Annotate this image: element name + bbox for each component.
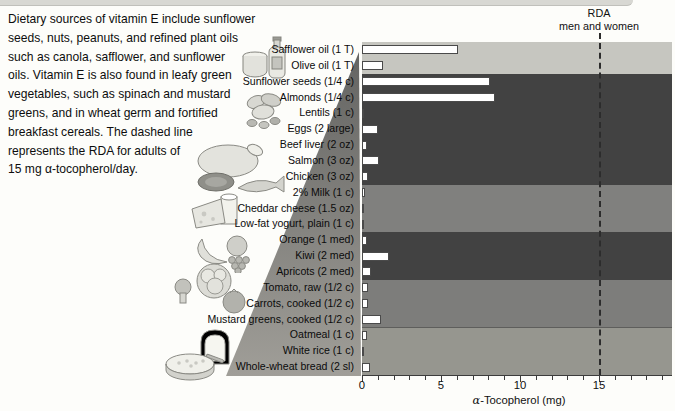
bar-2 xyxy=(362,77,490,86)
minor-tick-2 xyxy=(394,376,395,380)
bar-4 xyxy=(362,109,364,118)
band-seeds-nuts-protein xyxy=(362,74,672,185)
plot-area xyxy=(362,42,672,375)
row-label-10: Cheddar cheese (1.5 oz) xyxy=(0,201,358,217)
bar-17 xyxy=(362,315,381,324)
minor-tick-12 xyxy=(552,376,553,380)
row-label-4: Lentils (1 c) xyxy=(0,105,358,121)
minor-tick-13 xyxy=(567,376,568,380)
bar-1 xyxy=(362,61,383,70)
row-label-17: Mustard greens, cooked (1/2 c) xyxy=(0,312,358,328)
tick-label-15: 15 xyxy=(593,379,606,391)
row-label-16: Carrots, cooked (1/2 c) xyxy=(0,296,358,312)
minor-tick-14 xyxy=(583,376,584,380)
row-label-0: Safflower oil (1 T) xyxy=(0,42,358,58)
tick-label-10: 10 xyxy=(514,379,527,391)
row-label-6: Beef liver (2 oz) xyxy=(0,137,358,153)
bar-13 xyxy=(362,252,389,261)
minor-tick-9 xyxy=(504,376,505,380)
row-label-13: Kiwi (2 med) xyxy=(0,248,358,264)
category-labels: Safflower oil (1 T)Olive oil (1 T)Sunflo… xyxy=(0,42,358,375)
band-fruits xyxy=(362,232,672,280)
minor-tick-7 xyxy=(473,376,474,380)
bar-16 xyxy=(362,299,368,308)
minor-tick-1 xyxy=(378,376,379,380)
minor-tick-6 xyxy=(457,376,458,380)
rda-label-line2: men and women xyxy=(559,20,639,33)
row-label-5: Eggs (2 large) xyxy=(0,121,358,137)
minor-tick-3 xyxy=(409,376,410,380)
bar-19 xyxy=(362,347,364,356)
minor-tick-16 xyxy=(615,376,616,380)
bar-8 xyxy=(362,172,368,181)
row-label-20: Whole-wheat bread (2 sl) xyxy=(0,359,358,375)
bar-15 xyxy=(362,283,368,292)
row-label-2: Sunflower seeds (1/4 c) xyxy=(0,74,358,90)
bar-3 xyxy=(362,93,495,102)
minor-tick-17 xyxy=(631,376,632,380)
minor-tick-18 xyxy=(646,376,647,380)
row-label-1: Olive oil (1 T) xyxy=(0,58,358,74)
minor-tick-11 xyxy=(536,376,537,380)
row-label-15: Tomato, raw (1/2 c) xyxy=(0,280,358,296)
x-axis-title: α-Tocopherol (mg) xyxy=(472,394,565,407)
bar-0 xyxy=(362,45,458,54)
bar-7 xyxy=(362,156,379,165)
bar-9 xyxy=(362,188,365,197)
rda-line xyxy=(599,33,601,375)
rda-label-line1: RDA xyxy=(559,7,639,20)
row-label-7: Salmon (3 oz) xyxy=(0,153,358,169)
bar-12 xyxy=(362,236,367,245)
row-label-14: Apricots (2 med) xyxy=(0,264,358,280)
bar-6 xyxy=(362,141,367,150)
bar-18 xyxy=(362,331,367,340)
bar-11 xyxy=(362,220,364,229)
row-label-19: White rice (1 c) xyxy=(0,343,358,359)
row-label-12: Orange (1 med) xyxy=(0,232,358,248)
row-label-18: Oatmeal (1 c) xyxy=(0,327,358,343)
band-vegetables xyxy=(362,280,672,328)
bar-14 xyxy=(362,267,371,276)
tick-label-0: 0 xyxy=(359,379,365,391)
row-label-9: 2% Milk (1 c) xyxy=(0,185,358,201)
bar-20 xyxy=(362,363,370,372)
minor-tick-8 xyxy=(488,376,489,380)
bar-10 xyxy=(362,204,364,213)
band-grains xyxy=(362,327,672,375)
minor-tick-19 xyxy=(662,376,663,380)
row-label-11: Low-fat yogurt, plain (1 c) xyxy=(0,216,358,232)
row-label-8: Chicken (3 oz) xyxy=(0,169,358,185)
row-label-3: Almonds (1/4 c) xyxy=(0,90,358,106)
minor-tick-4 xyxy=(425,376,426,380)
bar-5 xyxy=(362,125,378,134)
tick-label-5: 5 xyxy=(438,379,444,391)
band-dairy xyxy=(362,185,672,233)
rda-label: RDA men and women xyxy=(559,7,639,32)
